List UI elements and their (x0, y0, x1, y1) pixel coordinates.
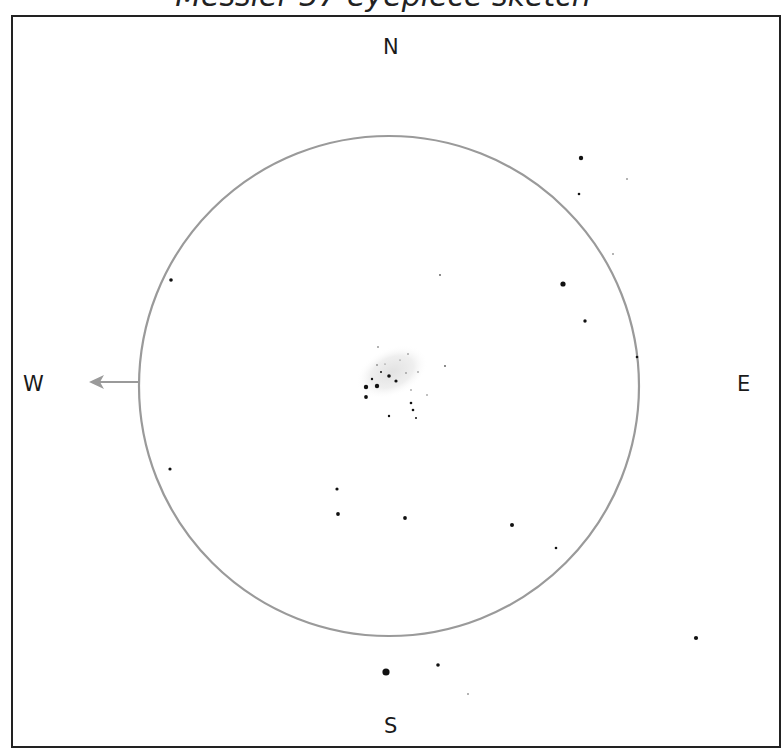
star (407, 353, 408, 354)
cluster-nebulosity (347, 334, 436, 410)
star (168, 467, 171, 470)
star (612, 253, 614, 255)
star (578, 193, 581, 196)
stars-group (168, 156, 698, 695)
star (380, 371, 382, 373)
star (364, 385, 368, 389)
star (560, 281, 565, 286)
star (410, 389, 411, 390)
star (417, 371, 418, 372)
star (403, 516, 407, 520)
star (388, 415, 390, 417)
star (444, 365, 446, 367)
star (510, 523, 514, 527)
star (439, 274, 441, 276)
star (384, 363, 385, 364)
west-arrow-icon (89, 375, 139, 389)
star (387, 374, 391, 378)
star (405, 372, 406, 373)
star (583, 319, 586, 322)
star (364, 395, 368, 399)
star (410, 402, 413, 405)
star (382, 668, 389, 675)
star (169, 278, 173, 282)
star (555, 547, 558, 550)
star (376, 364, 378, 366)
compass-north: N (383, 37, 399, 58)
star (415, 417, 417, 419)
compass-south: S (384, 716, 397, 737)
star (412, 409, 415, 412)
star (579, 156, 583, 160)
star (436, 663, 440, 667)
star (399, 359, 400, 360)
compass-west: W (23, 374, 44, 395)
star (626, 178, 628, 180)
star (394, 379, 397, 382)
compass-east: E (737, 374, 750, 395)
star (371, 378, 373, 380)
star (636, 356, 639, 359)
star (377, 346, 379, 348)
star (375, 384, 379, 388)
star (335, 487, 338, 490)
star (467, 693, 469, 695)
star (694, 636, 698, 640)
star (336, 512, 340, 516)
star (426, 394, 427, 395)
